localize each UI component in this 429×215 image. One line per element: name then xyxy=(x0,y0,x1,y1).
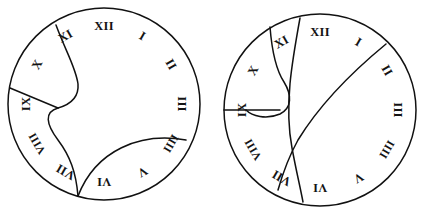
hour-numeral-xii: XII xyxy=(310,25,330,39)
hour-numeral-ix: IX xyxy=(235,103,249,118)
left-clock-face: XII I II III IIII V VI VII VIII IX X XI xyxy=(8,8,200,200)
hour-numeral-xii: XII xyxy=(94,19,114,33)
right-clock-face: XII I II III IIII V VI VII VIII IX X XI xyxy=(224,14,416,206)
hour-numeral-iii: III xyxy=(391,102,405,118)
sundial-figure: XII I II III IIII V VI VII VIII IX X XI xyxy=(0,0,429,215)
hour-numeral-vi: VI xyxy=(313,181,328,195)
hour-numeral-vi: VI xyxy=(97,175,112,189)
left-dial-rim xyxy=(8,8,200,200)
dial-diagram-canvas: XII I II III IIII V VI VII VIII IX X XI xyxy=(0,0,429,215)
hour-numeral-iii: III xyxy=(175,96,189,112)
hour-numeral-ix: IX xyxy=(19,97,33,112)
